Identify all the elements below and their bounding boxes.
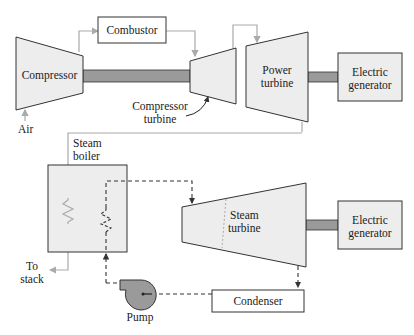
shaft-compressor [83, 70, 190, 82]
combined-cycle-diagram [0, 0, 414, 335]
generator-bottom-label-1: Electric [338, 214, 402, 227]
steam-turbine-label-2: turbine [228, 222, 261, 235]
steam-boiler-label-2: boiler [73, 150, 100, 163]
pump [120, 280, 156, 310]
steam-turbine-label-1: Steam [230, 209, 259, 222]
pump-label: Pump [122, 311, 158, 324]
combustor-label: Combustor [98, 24, 166, 37]
air-label: Air [18, 123, 33, 136]
compressor-label: Compressor [16, 69, 83, 82]
to-stack-label-1: To [18, 260, 46, 273]
shaft-steam-generator [306, 220, 338, 230]
power-turbine-label-2: turbine [246, 77, 308, 90]
power-turbine-label-1: Power [246, 64, 308, 77]
shaft-power-generator [308, 72, 338, 82]
compressor-turbine-label-1: Compressor [130, 100, 190, 113]
generator-bottom-label-2: generator [338, 227, 402, 240]
condenser-label: Condenser [212, 295, 304, 308]
to-stack-label-2: stack [18, 273, 46, 286]
generator-top-label-1: Electric [338, 66, 402, 79]
steam-boiler [48, 165, 127, 252]
generator-top-label-2: generator [338, 79, 402, 92]
compressor-turbine [190, 48, 236, 104]
compressor-turbine-label-2: turbine [130, 113, 190, 126]
steam-boiler-label-1: Steam [73, 137, 102, 150]
